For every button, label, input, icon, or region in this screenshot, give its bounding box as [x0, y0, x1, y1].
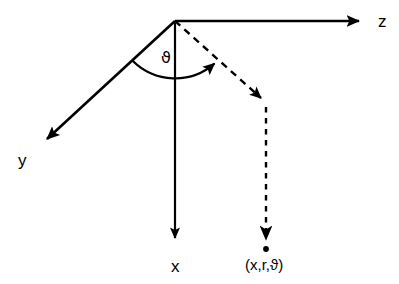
- coordinate-point-label: (x,r,ϑ): [245, 256, 283, 273]
- coordinate-point-marker: [263, 246, 269, 252]
- y-axis-line: [47, 21, 175, 139]
- radial-ray-dashed-line: [175, 21, 261, 98]
- cylindrical-coordinate-diagram: ϑ z y x (x,r,ϑ): [0, 0, 399, 284]
- z-axis-label: z: [378, 12, 387, 31]
- theta-angle-arc: [133, 61, 215, 79]
- x-axis-label: x: [171, 257, 180, 276]
- y-axis-label: y: [18, 151, 27, 170]
- coordinate-system-svg: ϑ z y x (x,r,ϑ): [0, 0, 399, 284]
- theta-angle-label: ϑ: [161, 48, 171, 67]
